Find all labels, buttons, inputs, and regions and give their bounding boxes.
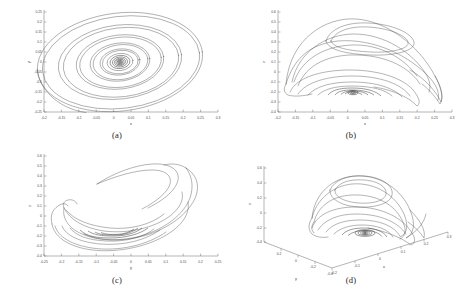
svg-text:0.05: 0.05 bbox=[145, 260, 152, 264]
svg-text:-0.05: -0.05 bbox=[34, 70, 42, 74]
svg-text:0.15: 0.15 bbox=[35, 30, 42, 34]
svg-text:-0.15: -0.15 bbox=[75, 260, 83, 264]
svg-text:-0.1: -0.1 bbox=[36, 224, 42, 228]
svg-text:0: 0 bbox=[260, 211, 262, 215]
svg-text:-0.2: -0.2 bbox=[256, 226, 262, 230]
svg-text:0.3: 0.3 bbox=[271, 40, 276, 44]
panel-b-caption: (b) bbox=[234, 130, 468, 140]
svg-text:0.3: 0.3 bbox=[216, 116, 221, 120]
svg-text:-0.4: -0.4 bbox=[256, 240, 262, 244]
panel-b-ytick-labels: 0.6 0.5 0.4 0.3 0.2 0.1 0 -0.1 -0.2 -0.3… bbox=[270, 10, 276, 114]
panel-b-xtick-labels: -0.2 -0.15 -0.1 -0.05 0 0.05 0.1 0.15 0.… bbox=[275, 116, 454, 120]
svg-text:0: 0 bbox=[113, 116, 115, 120]
svg-text:0.2: 0.2 bbox=[181, 116, 186, 120]
panel-a-xtick-labels: -0.2 -0.15 -0.1 -0.05 0 0.05 0.1 0.15 0.… bbox=[41, 116, 220, 120]
panel-a-trajectory bbox=[32, 3, 209, 121]
svg-text:-0.1: -0.1 bbox=[93, 260, 99, 264]
panel-d-xaxis-title: x bbox=[383, 265, 385, 269]
svg-text:0.2: 0.2 bbox=[257, 196, 262, 200]
svg-text:-0.3: -0.3 bbox=[36, 244, 42, 248]
svg-text:-0.05: -0.05 bbox=[110, 260, 118, 264]
svg-text:-0.1: -0.1 bbox=[76, 116, 82, 120]
svg-text:0.1: 0.1 bbox=[163, 260, 168, 264]
panel-b-zaxis-title: z bbox=[262, 61, 266, 63]
svg-text:-0.2: -0.2 bbox=[36, 234, 42, 238]
svg-text:0.2: 0.2 bbox=[277, 252, 282, 256]
panel-b-trajectory bbox=[284, 19, 442, 106]
panel-d-plot: 0.6 0.4 0.2 0 -0.2 -0.4 0.2 0 -0.2 -0.4 … bbox=[234, 146, 468, 293]
svg-text:-0.4: -0.4 bbox=[36, 254, 42, 258]
svg-text:0: 0 bbox=[347, 116, 349, 120]
svg-text:0.25: 0.25 bbox=[215, 260, 222, 264]
svg-text:0.4: 0.4 bbox=[257, 181, 262, 185]
figure-container: 0.25 0.2 0.15 0.1 0.05 0 -0.05 -0.1 -0.1… bbox=[0, 0, 468, 293]
svg-text:0.25: 0.25 bbox=[431, 116, 438, 120]
panel-c-plot: 0.6 0.5 0.4 0.3 0.2 0.1 0 -0.1 -0.2 -0.3… bbox=[0, 146, 234, 293]
svg-text:-0.2: -0.2 bbox=[310, 265, 316, 269]
svg-text:-0.05: -0.05 bbox=[326, 116, 334, 120]
svg-text:-0.05: -0.05 bbox=[92, 116, 100, 120]
panel-b-xaxis-title: x bbox=[364, 122, 366, 126]
svg-text:0.2: 0.2 bbox=[271, 50, 276, 54]
svg-text:0.6: 0.6 bbox=[271, 10, 276, 14]
svg-text:0.4: 0.4 bbox=[37, 174, 42, 178]
svg-text:0.05: 0.05 bbox=[128, 116, 135, 120]
svg-text:0.6: 0.6 bbox=[37, 154, 42, 158]
panel-b-plot: 0.6 0.5 0.4 0.3 0.2 0.1 0 -0.1 -0.2 -0.3… bbox=[234, 0, 468, 146]
svg-text:-0.2: -0.2 bbox=[58, 260, 64, 264]
svg-text:0.5: 0.5 bbox=[271, 20, 276, 24]
svg-text:0.2: 0.2 bbox=[415, 116, 420, 120]
svg-text:0: 0 bbox=[274, 70, 276, 74]
svg-text:-0.15: -0.15 bbox=[58, 116, 66, 120]
panel-d-ytick-labels: 0.2 0 -0.2 -0.4 bbox=[277, 252, 333, 276]
panel-b: 0.6 0.5 0.4 0.3 0.2 0.1 0 -0.1 -0.2 -0.3… bbox=[234, 0, 468, 146]
panel-c-yaxis-title: y bbox=[130, 266, 132, 270]
panel-d-xtick-labels: -0.2 -0.1 0 0.1 0.2 0.3 bbox=[331, 235, 451, 275]
svg-text:0: 0 bbox=[40, 214, 42, 218]
svg-text:-0.1: -0.1 bbox=[310, 116, 316, 120]
svg-text:-0.1: -0.1 bbox=[270, 80, 276, 84]
svg-text:-0.25: -0.25 bbox=[34, 110, 42, 114]
panel-c-ytick-labels: 0.6 0.5 0.4 0.3 0.2 0.1 0 -0.1 -0.2 -0.3… bbox=[36, 154, 42, 258]
panel-d-axes bbox=[264, 166, 448, 271]
svg-text:-0.2: -0.2 bbox=[36, 100, 42, 104]
svg-text:0: 0 bbox=[40, 60, 42, 64]
svg-text:0.4: 0.4 bbox=[271, 30, 276, 34]
panel-a: 0.25 0.2 0.15 0.1 0.05 0 -0.05 -0.1 -0.1… bbox=[0, 0, 234, 146]
panel-a-xaxis-title: x bbox=[130, 122, 132, 126]
panel-d-caption: (d) bbox=[234, 275, 468, 285]
svg-text:0.2: 0.2 bbox=[37, 20, 42, 24]
svg-text:0.2: 0.2 bbox=[424, 242, 429, 246]
panel-a-axes bbox=[44, 10, 218, 112]
svg-text:0.1: 0.1 bbox=[401, 250, 406, 254]
svg-text:0: 0 bbox=[130, 260, 132, 264]
svg-text:-0.25: -0.25 bbox=[40, 260, 48, 264]
panel-c-caption: (c) bbox=[0, 275, 234, 285]
panel-c-trajectory bbox=[51, 164, 197, 251]
panel-a-yaxis-title: y bbox=[27, 61, 31, 63]
svg-text:0: 0 bbox=[295, 259, 297, 263]
svg-text:0.25: 0.25 bbox=[197, 116, 204, 120]
svg-text:-0.1: -0.1 bbox=[354, 264, 360, 268]
svg-text:0: 0 bbox=[379, 257, 381, 261]
svg-text:0.25: 0.25 bbox=[35, 10, 42, 14]
svg-text:-0.2: -0.2 bbox=[275, 116, 281, 120]
svg-text:-0.2: -0.2 bbox=[270, 90, 276, 94]
svg-text:0.1: 0.1 bbox=[146, 116, 151, 120]
svg-text:0.2: 0.2 bbox=[198, 260, 203, 264]
svg-text:0.05: 0.05 bbox=[362, 116, 369, 120]
svg-text:0.1: 0.1 bbox=[271, 60, 276, 64]
svg-text:-0.4: -0.4 bbox=[270, 110, 276, 114]
svg-text:-0.3: -0.3 bbox=[270, 100, 276, 104]
panel-c-xtick-labels: -0.25 -0.2 -0.15 -0.1 -0.05 0 0.05 0.1 0… bbox=[40, 260, 221, 264]
panel-b-axes bbox=[278, 10, 452, 112]
svg-text:-0.15: -0.15 bbox=[292, 116, 300, 120]
svg-text:0.15: 0.15 bbox=[162, 116, 169, 120]
svg-text:0.2: 0.2 bbox=[37, 194, 42, 198]
panel-c-zaxis-title: z bbox=[28, 205, 32, 207]
panel-c-axes bbox=[44, 154, 218, 256]
panel-a-ytick-labels: 0.25 0.2 0.15 0.1 0.05 0 -0.05 -0.1 -0.1… bbox=[34, 10, 42, 114]
svg-text:0.3: 0.3 bbox=[37, 184, 42, 188]
svg-text:0.6: 0.6 bbox=[257, 166, 262, 170]
panel-d-zaxis-title: z bbox=[248, 203, 252, 205]
